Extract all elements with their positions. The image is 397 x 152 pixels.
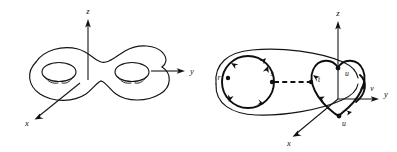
handle-label-s: s	[270, 69, 273, 78]
handle-point-s	[270, 80, 274, 84]
right-axis-label-x: x	[286, 138, 291, 148]
handle-point-u-top	[336, 66, 341, 71]
handle-label-r: r	[217, 73, 221, 82]
handle-label-u-bottom: u	[342, 119, 346, 128]
right-panel-handle: z y x r s t u u v	[0, 0, 397, 152]
handle-label-t: t	[318, 75, 321, 84]
handle-right-cross-right-lobe	[338, 61, 364, 116]
right-axis-label-z: z	[335, 8, 340, 18]
handle-label-u-top: u	[345, 69, 349, 78]
handle-label-v: v	[370, 84, 374, 93]
figure-canvas: z y x	[0, 0, 397, 152]
handle-point-u-bottom	[337, 114, 342, 119]
handle-point-r	[226, 76, 230, 80]
right-axis-label-y: y	[383, 89, 388, 99]
handle-right-cross-left-lobe	[312, 61, 339, 116]
